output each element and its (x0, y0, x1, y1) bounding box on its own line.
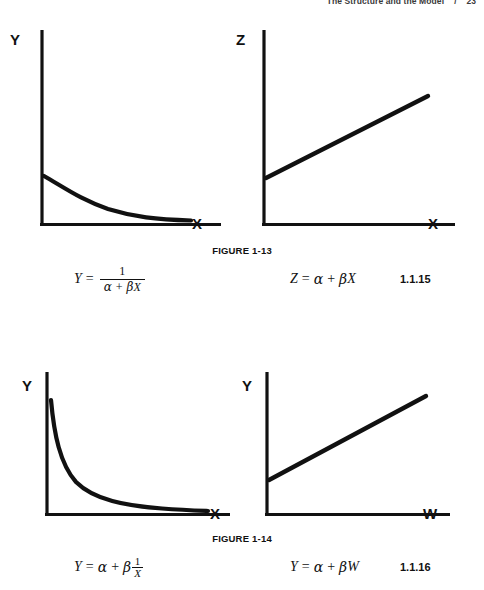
x-axis-label-bottom-left: X (210, 506, 220, 521)
equals-sign: = (82, 271, 98, 287)
curve-decaying-hyperbola-top-left (44, 176, 191, 221)
figure-caption-1-14: FIGURE 1-14 (0, 533, 484, 544)
plus-sign: + (112, 280, 127, 294)
equals-sign: = (82, 559, 98, 575)
fraction-numerator: 1 (115, 265, 129, 279)
page-number: 23 (467, 0, 476, 6)
beta-symbol: β (127, 280, 134, 294)
equation-number-1-1-15: 1.1.15 (400, 273, 431, 285)
alpha-symbol: α (104, 280, 112, 294)
running-head-title: The Structure and the Model (327, 0, 444, 6)
fraction-denominator: α+βX (100, 279, 145, 294)
equation-lhs: Y (74, 559, 82, 575)
beta-symbol: β (339, 559, 347, 575)
equation-number-1-1-16: 1.1.16 (400, 561, 431, 573)
equation-right-1-1-16: Y = α + β W (290, 559, 359, 575)
equation-lhs: Y (290, 559, 298, 575)
y-axis-label-bottom-left: Y (22, 378, 32, 393)
x-axis-label-top-right: X (428, 216, 438, 231)
alpha-symbol: α (98, 559, 107, 575)
y-axis-label-top-left: Y (10, 32, 20, 47)
plot-svg-top-right (240, 30, 455, 245)
x-axis-label-top-left: X (192, 216, 202, 231)
variable-x: X (347, 271, 356, 287)
fraction: 1 α+βX (100, 265, 145, 293)
y-axis-label-bottom-right: Y (242, 378, 252, 393)
plot-panel-bottom-right: Y W (240, 372, 450, 532)
variable-w: W (347, 559, 359, 575)
x-axis-label-bottom-right: W (423, 506, 437, 521)
fraction-denominator: X (132, 567, 143, 579)
figure-caption-1-13: FIGURE 1-13 (0, 245, 484, 256)
plus-sign: + (323, 271, 339, 287)
equals-sign: = (298, 559, 314, 575)
plus-sign: + (107, 559, 123, 575)
plus-sign: + (323, 559, 339, 575)
beta-symbol: β (123, 559, 131, 575)
equation-left-1-1-16: Y = α + β 1 X (74, 556, 143, 579)
equation-row-1-1-16: Y = α + β 1 X Y = α + β W 1.1.16 (0, 550, 484, 584)
equation-lhs: Y (74, 271, 82, 287)
line-positive-slope-top-right (266, 96, 428, 178)
running-head: The Structure and the Model / 23 (0, 0, 484, 8)
equation-row-1-1-15: Y = 1 α+βX Z = α + β X 1.1.15 (0, 262, 484, 296)
equals-sign: = (298, 271, 314, 287)
equation-right-1-1-15: Z = α + β X (290, 271, 356, 287)
plot-panel-top-right: Z X (240, 30, 455, 245)
alpha-symbol: α (314, 559, 323, 575)
equation-left-1-1-15: Y = 1 α+βX (74, 265, 147, 293)
line-positive-slope-bottom-right (269, 396, 426, 480)
plot-panel-top-left: Y X (16, 30, 221, 245)
fraction-numerator: 1 (133, 556, 143, 567)
beta-symbol: β (339, 271, 347, 287)
y-axis-label-top-right: Z (236, 32, 245, 47)
plot-svg-top-left (16, 30, 221, 245)
plot-svg-bottom-left (30, 372, 230, 532)
plot-panel-bottom-left: Y X (30, 372, 230, 532)
running-head-separator: / (454, 0, 456, 6)
alpha-symbol: α (314, 271, 323, 287)
plot-svg-bottom-right (240, 372, 450, 532)
fraction-one-over-x: 1 X (132, 556, 143, 579)
equation-lhs: Z (290, 271, 298, 287)
variable-x: X (134, 280, 141, 294)
curve-steep-decaying-hyperbola-bottom-left (51, 400, 208, 511)
